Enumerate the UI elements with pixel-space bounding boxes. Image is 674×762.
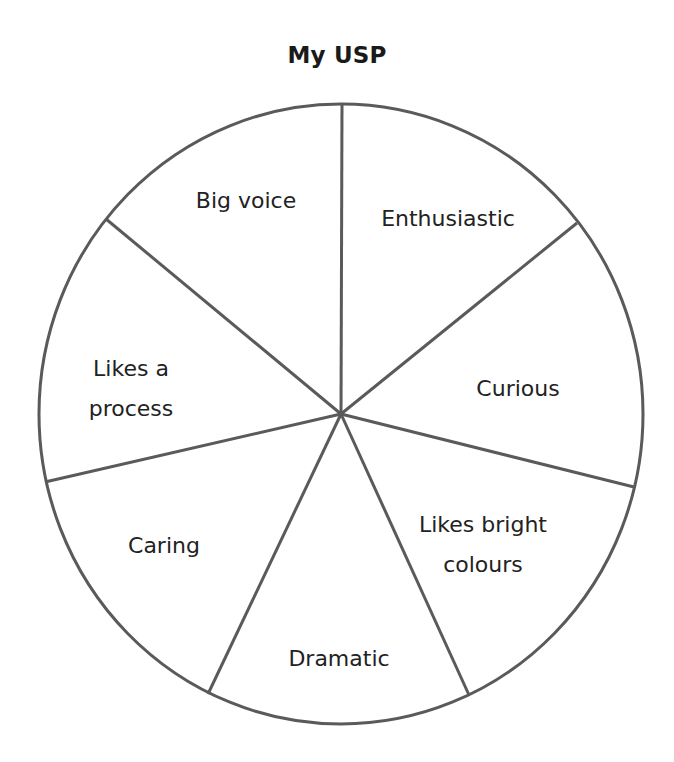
- segment-label-line: Likes bright: [419, 512, 547, 537]
- segment-label-line: colours: [443, 552, 523, 577]
- segment-label-line: Curious: [476, 376, 559, 401]
- divider-line: [106, 219, 341, 414]
- segment-label-line: process: [89, 396, 174, 421]
- segment-label-line: Enthusiastic: [381, 206, 515, 231]
- segment-label: Enthusiastic: [381, 206, 515, 231]
- segment-label: Caring: [128, 533, 200, 558]
- divider-line: [341, 104, 342, 414]
- segment-label: Likes aprocess: [89, 356, 174, 421]
- usp-wheel: Big voiceEnthusiasticCuriousLikes bright…: [0, 0, 674, 762]
- divider-line: [341, 414, 634, 487]
- segment-label: Dramatic: [288, 646, 389, 671]
- segment-label-line: Caring: [128, 533, 200, 558]
- segment-label-line: Dramatic: [288, 646, 389, 671]
- segment-label: Big voice: [196, 188, 296, 213]
- segment-label-line: Big voice: [196, 188, 296, 213]
- segment-label: Curious: [476, 376, 559, 401]
- segment-label: Likes brightcolours: [419, 512, 547, 577]
- divider-line: [45, 414, 341, 482]
- segment-label-line: Likes a: [93, 356, 169, 381]
